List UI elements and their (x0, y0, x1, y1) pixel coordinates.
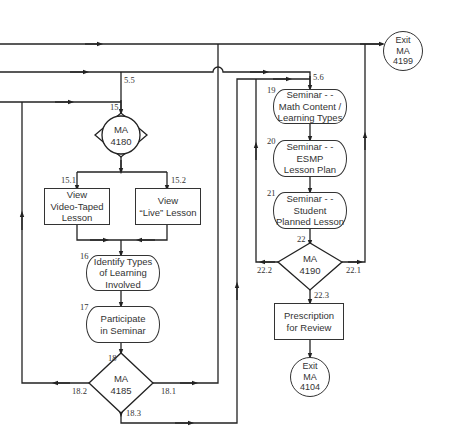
node-label-line: of Learning (94, 267, 152, 279)
seminar-esmp-lesson-plan: Seminar - -ESMPLesson Plan (273, 140, 347, 177)
edge-label-15-1: 15.1 (61, 175, 76, 185)
line-middle-entry (0, 67, 310, 86)
node-label-line: Participate (100, 313, 145, 325)
node-number-18: 18 (108, 353, 117, 363)
node-number-20: 20 (267, 136, 276, 146)
edge-label-22-2: 22.2 (257, 265, 272, 275)
decision-label-line: MA (290, 253, 330, 265)
node-label-line: Student (276, 205, 344, 217)
node-label-line: “Live” Lesson (139, 207, 196, 219)
decision-22-label: MA 4190 (290, 253, 330, 276)
seminar-student-planned-lesson: Seminar - -StudentPlanned Lesson (273, 192, 347, 229)
decision-label-line: MA (101, 373, 141, 385)
decision-label-line: 4185 (101, 385, 141, 397)
decision-label-line: MA (101, 124, 141, 136)
exit-label: 4199 (393, 56, 413, 67)
node-label-line: Planned Lesson (276, 216, 344, 228)
decision-label-line: 4190 (290, 265, 330, 277)
exit-label: MA (393, 46, 413, 57)
node-label-line: ESMP (284, 153, 336, 165)
node-label-line: Math Content / (278, 101, 343, 113)
node-number-16: 16 (80, 251, 89, 261)
view-live-lesson: View“Live” Lesson (135, 188, 201, 225)
node-number-21: 21 (267, 188, 276, 198)
edge-label-5-6: 5.6 (313, 72, 324, 82)
node-label-line: Video-Taped (50, 201, 103, 213)
node-number-15: 15 (110, 102, 119, 112)
node-label-line: Involved (94, 279, 152, 291)
edge-label-22-1: 22.1 (346, 265, 361, 275)
exit-ma-4199: ExitMA4199 (383, 31, 423, 71)
node-label-line: Identify Types (94, 256, 152, 268)
node-label-line: Lesson (50, 212, 103, 224)
exit-label: 4104 (300, 382, 320, 393)
node-label-line: Learning Types (278, 112, 343, 124)
node-label-line: in Seminar (100, 325, 145, 337)
node-label-line: Prescription (284, 310, 334, 322)
edge-label-5-5: 5.5 (124, 75, 135, 85)
decision-18-label: MA 4185 (101, 373, 141, 396)
loop-18-2 (22, 102, 89, 383)
edge-label-18-1: 18.1 (161, 386, 176, 396)
identify-types-of-learning: Identify Typesof LearningInvolved (86, 255, 160, 291)
edge-label-18-2: 18.2 (72, 386, 87, 396)
exit-label: Exit (393, 35, 413, 46)
node-number-22: 22 (297, 234, 306, 244)
decision-15-label: MA 4180 (101, 124, 141, 147)
node-label-line: Seminar - - (276, 193, 344, 205)
exit-label: MA (300, 372, 320, 383)
node-label-line: for Review (284, 322, 334, 334)
edge-label-15-2: 15.2 (171, 175, 186, 185)
exit-ma-4104: ExitMA4104 (290, 357, 330, 397)
edge-label-18-3: 18.3 (126, 408, 141, 418)
participate-in-seminar: Participatein Seminar (86, 306, 160, 343)
decision-label-line: 4180 (101, 136, 141, 148)
node-label-line: View (50, 189, 103, 201)
node-label-line: Lesson Plan (284, 164, 336, 176)
node-number-17: 17 (80, 302, 89, 312)
prescription-for-review: Prescriptionfor Review (274, 303, 344, 340)
node-label-line: View (139, 195, 196, 207)
node-label-line: Seminar - - (278, 89, 343, 101)
seminar-math-content: Seminar - -Math Content /Learning Types (273, 89, 347, 124)
exit-label: Exit (300, 361, 320, 372)
node-number-19: 19 (267, 85, 276, 95)
edge-label-22-3: 22.3 (314, 290, 329, 300)
view-video-taped-lesson: ViewVideo-TapedLesson (44, 188, 110, 225)
node-label-line: Seminar - - (284, 141, 336, 153)
